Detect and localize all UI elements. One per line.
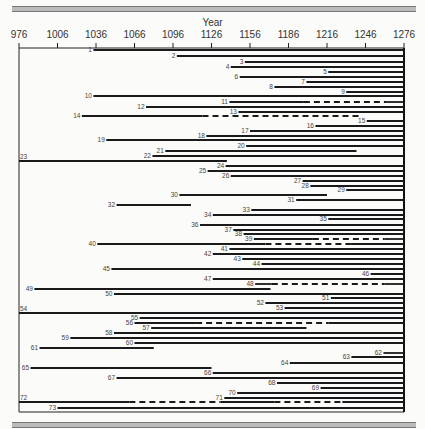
row-number-label: 3 bbox=[240, 58, 244, 65]
x-tick-label: 1246 bbox=[354, 29, 377, 40]
x-tick-label: 976 bbox=[11, 29, 28, 40]
row-number-label: 66 bbox=[204, 369, 212, 376]
row-number-label: 69 bbox=[312, 384, 320, 391]
row-number-label: 7 bbox=[301, 78, 305, 85]
x-tick-label: 1066 bbox=[123, 29, 146, 40]
row-number-label: 51 bbox=[322, 294, 330, 301]
row-number-label: 16 bbox=[307, 122, 315, 129]
row-number-label: 26 bbox=[222, 172, 230, 179]
row-number-label: 43 bbox=[234, 255, 242, 262]
row-number-label: 68 bbox=[268, 379, 276, 386]
row-number-label: 62 bbox=[375, 349, 383, 356]
row-number-label: 60 bbox=[126, 339, 134, 346]
row-number-label: 31 bbox=[287, 196, 295, 203]
row-number-label: 38 bbox=[235, 230, 243, 237]
row-number-label: 40 bbox=[89, 240, 97, 247]
row-number-label: 39 bbox=[245, 235, 253, 242]
row-number-label: 41 bbox=[221, 245, 229, 252]
row-number-label: 64 bbox=[281, 359, 289, 366]
row-number-label: 48 bbox=[246, 280, 254, 287]
timeline-chart: 9761006103610661096112611561186121612461… bbox=[0, 0, 425, 429]
row-number-label: 71 bbox=[216, 394, 224, 401]
row-number-label: 46 bbox=[362, 270, 370, 277]
row-number-label: 52 bbox=[257, 299, 265, 306]
row-number-label: 1 bbox=[88, 46, 92, 53]
row-number-label: 72 bbox=[20, 394, 28, 401]
row-number-label: 32 bbox=[108, 201, 116, 208]
x-tick-label: 1156 bbox=[239, 29, 261, 40]
row-number-label: 63 bbox=[343, 353, 351, 360]
row-number-label: 11 bbox=[221, 98, 228, 105]
row-number-label: 4 bbox=[226, 63, 230, 70]
row-number-label: 13 bbox=[230, 108, 238, 115]
x-tick-label: 1006 bbox=[46, 29, 69, 40]
x-tick-label: 1126 bbox=[201, 29, 223, 40]
row-number-label: 20 bbox=[237, 142, 245, 149]
row-number-label: 65 bbox=[22, 364, 30, 371]
row-number-label: 14 bbox=[73, 112, 81, 119]
x-tick-label: 1096 bbox=[162, 29, 185, 40]
row-number-label: 5 bbox=[323, 68, 327, 75]
row-number-label: 56 bbox=[126, 319, 134, 326]
row-number-label: 45 bbox=[103, 265, 111, 272]
row-number-label: 50 bbox=[105, 290, 113, 297]
x-tick-label: 1216 bbox=[316, 29, 339, 40]
row-number-label: 61 bbox=[31, 344, 39, 351]
row-number-label: 59 bbox=[62, 334, 70, 341]
row-number-label: 53 bbox=[276, 304, 284, 311]
row-number-label: 73 bbox=[49, 404, 57, 411]
row-number-label: 37 bbox=[225, 226, 233, 233]
row-number-label: 28 bbox=[302, 182, 310, 189]
row-number-label: 18 bbox=[198, 132, 206, 139]
row-number-label: 35 bbox=[320, 215, 328, 222]
row-number-label: 67 bbox=[108, 374, 116, 381]
row-number-label: 8 bbox=[269, 83, 273, 90]
row-number-label: 15 bbox=[358, 117, 366, 124]
row-number-label: 42 bbox=[204, 250, 212, 257]
row-number-label: 21 bbox=[157, 147, 165, 154]
row-number-label: 44 bbox=[253, 260, 261, 267]
row-number-label: 12 bbox=[137, 103, 145, 110]
row-number-label: 6 bbox=[235, 73, 239, 80]
row-number-label: 47 bbox=[204, 275, 212, 282]
row-number-label: 49 bbox=[26, 285, 34, 292]
row-number-label: 19 bbox=[98, 136, 106, 143]
row-number-label: 30 bbox=[171, 191, 179, 198]
row-number-label: 10 bbox=[85, 92, 93, 99]
bottom-double-rule bbox=[12, 422, 416, 428]
row-number-label: 36 bbox=[191, 221, 199, 228]
x-tick-label: 1276 bbox=[393, 29, 416, 40]
row-number-label: 23 bbox=[20, 153, 28, 160]
row-number-label: 22 bbox=[144, 152, 152, 159]
row-number-label: 9 bbox=[341, 88, 345, 95]
row-number-label: 2 bbox=[172, 52, 176, 59]
row-number-label: 27 bbox=[294, 177, 302, 184]
row-number-label: 58 bbox=[105, 329, 113, 336]
row-number-label: 33 bbox=[243, 206, 251, 213]
row-number-label: 29 bbox=[338, 186, 346, 193]
row-number-label: 57 bbox=[142, 324, 150, 331]
x-tick-label: 1186 bbox=[278, 29, 300, 40]
row-number-label: 25 bbox=[199, 167, 207, 174]
row-number-label: 70 bbox=[228, 389, 236, 396]
row-number-label: 54 bbox=[20, 305, 28, 312]
row-number-label: 24 bbox=[217, 162, 225, 169]
row-number-label: 34 bbox=[204, 211, 212, 218]
x-tick-label: 1036 bbox=[85, 29, 108, 40]
row-number-label: 17 bbox=[241, 127, 249, 134]
